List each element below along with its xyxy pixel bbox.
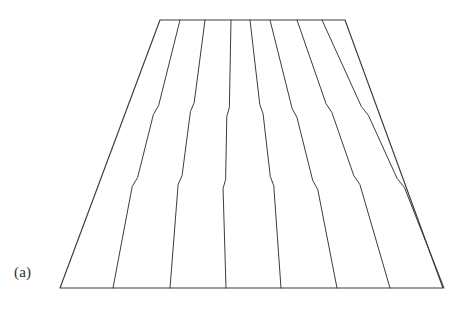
seam-1 xyxy=(113,20,180,288)
seam-4 xyxy=(250,20,281,288)
seam-5 xyxy=(270,20,337,288)
seam-3 xyxy=(223,20,231,288)
seam-7 xyxy=(322,20,444,288)
seam-6 xyxy=(297,20,390,288)
seam-2 xyxy=(170,20,205,288)
panel-label: (a) xyxy=(14,262,54,282)
figure-drawing xyxy=(0,0,463,323)
figure-container: (a) xyxy=(0,0,463,323)
